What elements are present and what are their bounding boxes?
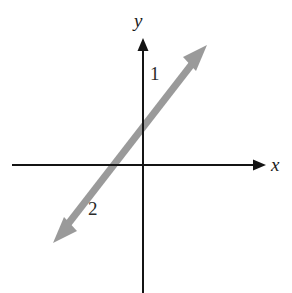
y-axis-label: y (134, 11, 142, 30)
figure-canvas (0, 0, 292, 293)
line-label-1: 1 (150, 64, 160, 83)
coordinate-plane-figure: y x 1 2 (0, 0, 292, 293)
x-axis-label: x (271, 155, 279, 174)
figure-background (0, 0, 292, 293)
line-label-2: 2 (88, 199, 98, 218)
